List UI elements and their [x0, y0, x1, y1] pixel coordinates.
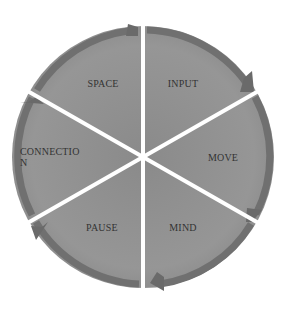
segment-label-move: MOVE	[208, 152, 238, 163]
cycle-diagram: INPUT MOVE MIND PAUSE CONNECTIO N SPACE	[0, 0, 284, 309]
segment-label-space: SPACE	[87, 78, 118, 89]
segment-label-connection-line1: CONNECTIO	[20, 146, 80, 157]
segment-label-connection-line2: N	[20, 157, 27, 168]
arrowhead-space-icon	[126, 24, 138, 36]
segment-label-pause: PAUSE	[86, 222, 118, 233]
segment-label-input: INPUT	[168, 78, 198, 89]
segment-label-mind: MIND	[169, 222, 196, 233]
